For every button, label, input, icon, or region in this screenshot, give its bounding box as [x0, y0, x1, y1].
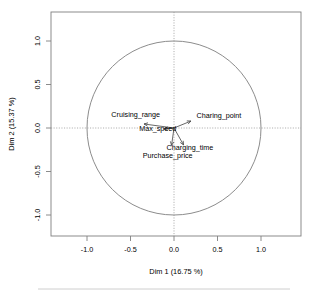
variable-label-purchase-price: Purchase_price	[143, 151, 193, 160]
pca-correlation-circle-plot: -1.0 -0.5 0.0 0.5 1.0 1.0 0.5 0.0 -0.5 -…	[0, 0, 312, 292]
y-axis-title: Dim 2 (15.37 %)	[7, 97, 16, 150]
arrow-shaft	[174, 121, 191, 128]
variable-label-layer: Cruising_rangeMax_speedCharing_pointChar…	[111, 110, 241, 160]
x-axis-ticks	[87, 236, 261, 241]
x-tick-label-neg1: -1.0	[81, 245, 93, 254]
x-tick-label-0: 0.0	[169, 245, 179, 254]
x-axis-title: Dim 1 (16.75 %)	[149, 267, 202, 276]
x-tick-label-0-5: 0.5	[213, 245, 223, 254]
variable-arrow-charing-point	[174, 121, 191, 128]
y-tick-label-0-5: 0.5	[33, 80, 42, 90]
variable-label-max-speed: Max_speed	[139, 124, 176, 133]
x-tick-label-neg0-5: -0.5	[124, 245, 136, 254]
variable-label-cruising-range: Cruising_range	[111, 110, 160, 119]
y-tick-label-neg0-5: -0.5	[33, 165, 42, 177]
x-tick-label-1: 1.0	[256, 245, 266, 254]
variable-label-charing-point: Charing_point	[197, 111, 242, 120]
y-tick-label-0: 0.0	[33, 123, 42, 133]
y-axis-ticks	[46, 41, 51, 215]
y-tick-label-1: 1.0	[33, 36, 42, 46]
plot-canvas: -1.0 -0.5 0.0 0.5 1.0 1.0 0.5 0.0 -0.5 -…	[0, 0, 312, 292]
y-tick-label-neg1: -1.0	[33, 209, 42, 221]
